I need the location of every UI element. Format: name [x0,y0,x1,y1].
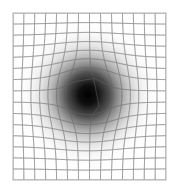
figure-root [0,0,178,193]
distorted-grid-figure [0,0,178,193]
